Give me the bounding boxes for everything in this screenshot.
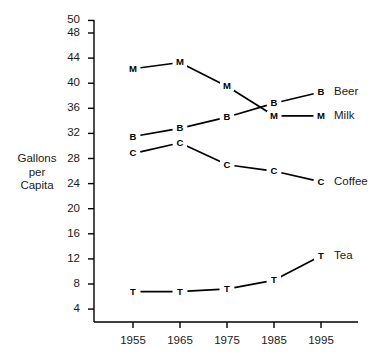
- x-tick-label: 1985: [252, 335, 296, 347]
- data-point-marker: M: [173, 57, 187, 67]
- x-tick-label: 1965: [158, 335, 202, 347]
- data-point-marker: C: [267, 166, 281, 176]
- y-tick-label: 28: [50, 153, 80, 165]
- data-point-marker: T: [267, 275, 281, 285]
- x-tick-label: 1955: [111, 335, 155, 347]
- data-point-marker: T: [173, 287, 187, 297]
- y-tick-label: 48: [50, 27, 80, 39]
- series-label-beer: Beer: [334, 86, 358, 98]
- data-point-marker: C: [314, 177, 328, 187]
- y-tick-label: 24: [50, 178, 80, 190]
- y-tick-label: 4: [50, 303, 80, 315]
- series-label-milk: Milk: [334, 110, 354, 122]
- data-point-marker: M: [314, 111, 328, 121]
- data-point-marker: C: [126, 148, 140, 158]
- data-point-marker: M: [126, 64, 140, 74]
- y-tick-label: 44: [50, 52, 80, 64]
- y-tick-label: 32: [50, 127, 80, 139]
- data-point-marker: C: [173, 138, 187, 148]
- y-tick-label: 40: [50, 77, 80, 89]
- data-point-marker: B: [173, 123, 187, 133]
- data-point-marker: M: [220, 81, 234, 91]
- data-point-marker: T: [126, 287, 140, 297]
- data-point-marker: C: [220, 160, 234, 170]
- data-point-marker: B: [314, 87, 328, 97]
- series-label-coffee: Coffee: [334, 176, 368, 188]
- y-tick-label: 36: [50, 102, 80, 114]
- y-tick-label: 16: [50, 228, 80, 240]
- y-tick-label: 12: [50, 253, 80, 265]
- y-tick-label: 50: [50, 14, 80, 26]
- chart-container: Gallons per Capita 481216202428323640444…: [0, 0, 381, 364]
- data-point-marker: T: [314, 251, 328, 261]
- data-point-marker: B: [126, 132, 140, 142]
- y-tick-label: 8: [50, 278, 80, 290]
- data-point-marker: B: [267, 98, 281, 108]
- data-point-marker: T: [220, 284, 234, 294]
- series-label-tea: Tea: [334, 250, 353, 262]
- x-tick-label: 1995: [299, 335, 343, 347]
- y-tick-label: 20: [50, 203, 80, 215]
- x-tick-label: 1975: [205, 335, 249, 347]
- data-point-marker: B: [220, 112, 234, 122]
- series-lines: [140, 63, 314, 291]
- data-point-marker: M: [267, 111, 281, 121]
